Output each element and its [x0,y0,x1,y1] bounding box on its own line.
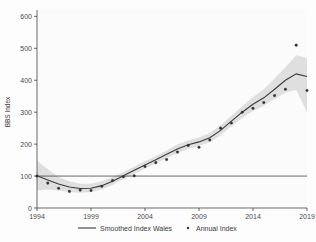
y-tick-label: 300 [20,109,32,116]
data-point [79,189,82,192]
data-point [144,165,147,168]
data-point [252,107,255,110]
data-point [241,111,244,114]
x-tick-label: 2019 [299,213,315,220]
data-point [273,94,276,97]
data-point [68,190,71,193]
data-point [122,175,125,178]
data-point [57,187,60,190]
x-tick-label: 2004 [137,213,153,220]
data-point [219,127,222,130]
data-point [101,185,104,188]
data-point [155,161,158,164]
data-point [306,89,309,92]
y-axis-ticks: 0100200300400500600 [20,13,37,212]
data-point [165,158,168,161]
bbs-index-chart: 0100200300400500600 19941999200420092014… [0,0,316,242]
y-axis-title: BBS Index [4,96,11,127]
x-axis-ticks: 199419992004200920142019 [29,208,315,220]
data-point [230,122,233,125]
chart-figure: 0100200300400500600 19941999200420092014… [0,0,316,242]
data-point [47,182,50,185]
data-point [263,101,266,104]
data-point [187,144,190,147]
y-tick-label: 400 [20,77,32,84]
data-point [176,151,179,154]
y-tick-label: 600 [20,13,32,20]
x-tick-label: 1999 [83,213,99,220]
y-tick-label: 100 [20,173,32,180]
legend-dot-swatch [187,227,189,229]
x-tick-label: 2009 [191,213,207,220]
y-tick-label: 200 [20,141,32,148]
data-point [209,139,212,142]
data-point [198,146,201,149]
data-point [90,189,93,192]
y-tick-label: 500 [20,45,32,52]
plot-background [37,10,307,208]
data-point [284,88,287,91]
legend-label-annual: Annual Index [196,225,237,232]
data-point [295,44,298,47]
legend-label-smoothed: Smoothed Index Wales [100,225,173,232]
x-tick-label: 1994 [29,213,45,220]
data-point [111,179,114,182]
data-point [133,174,136,177]
y-tick-label: 0 [28,205,32,212]
x-tick-label: 2014 [245,213,261,220]
